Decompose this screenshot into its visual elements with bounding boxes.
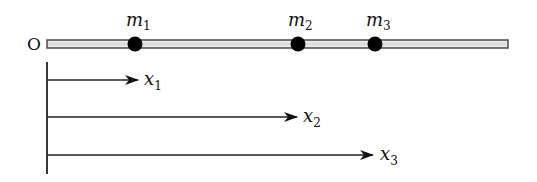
arrow-x2: x2 bbox=[47, 105, 321, 130]
arrow-x1: x1 bbox=[47, 68, 162, 93]
mass-label: m2 bbox=[288, 9, 313, 33]
arrow-label: x1 bbox=[144, 68, 162, 93]
mass-dot-icon bbox=[128, 37, 143, 52]
mass-label: m3 bbox=[366, 9, 391, 33]
mass-dot-icon bbox=[291, 37, 306, 52]
arrow-label: x3 bbox=[380, 143, 398, 168]
mass-label: m1 bbox=[126, 9, 151, 33]
arrow-label: x2 bbox=[303, 105, 321, 130]
mass-dot-icon bbox=[368, 37, 383, 52]
diagram-canvas: O m1 m2 m3 x1 x2 x3 bbox=[0, 0, 537, 182]
origin-label: O bbox=[27, 34, 41, 54]
arrow-x3: x3 bbox=[47, 143, 398, 168]
